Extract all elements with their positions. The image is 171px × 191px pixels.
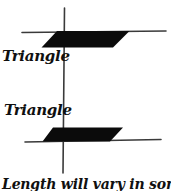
- triangle-label-top: Triangle: [2, 47, 70, 65]
- geometry-figure: Triangle Triangle Length will vary in so…: [0, 0, 171, 191]
- top-filled-parallelogram: [42, 31, 130, 48]
- bottom-filled-parallelogram: [43, 128, 124, 142]
- figure-drawing: [0, 0, 171, 191]
- figure-caption: Length will vary in some.: [2, 175, 171, 191]
- triangle-label-bottom: Triangle: [4, 101, 72, 119]
